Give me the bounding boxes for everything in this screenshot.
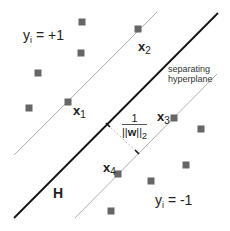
positive-point-square-icon	[26, 105, 33, 112]
hyperplane-caption: separating hyperplane	[168, 64, 213, 84]
class-value: = +1	[32, 27, 64, 43]
vector-sub: 2	[145, 45, 151, 56]
fraction-numerator: 1	[122, 113, 147, 124]
caption-line-1: separating	[168, 64, 210, 74]
lower-margin-line	[75, 74, 217, 218]
arrow-tick-icon	[135, 150, 139, 154]
support-vector-label-x3: x3	[157, 110, 170, 126]
caption-line-2: hyperplane	[168, 74, 213, 84]
margin-width-fraction: 1 ||w||2	[122, 113, 147, 142]
class-negative-label: yi = -1	[155, 193, 192, 210]
weight-vector-symbol: w	[128, 126, 137, 138]
positive-point-square-icon	[78, 50, 85, 57]
norm-subscript: 2	[142, 131, 147, 141]
hyperplane-name-label: H	[53, 186, 63, 200]
negative-point-square-icon	[148, 178, 155, 185]
negative-point-square-icon	[108, 208, 115, 215]
vector-sub: 1	[80, 109, 86, 120]
positive-point-square-icon	[35, 70, 42, 77]
positive-point-square-icon	[79, 19, 86, 26]
support-vector-label-x1: x1	[73, 104, 86, 120]
class-var: y	[155, 192, 162, 208]
class-var: y	[23, 27, 30, 43]
fraction-denominator: ||w||2	[122, 124, 147, 142]
support-vector-label-x2: x2	[138, 40, 151, 56]
class-positive-label: yi = +1	[23, 28, 64, 45]
support-vector-square-icon	[65, 99, 72, 106]
negative-point-square-icon	[198, 126, 205, 133]
class-value: = -1	[164, 192, 192, 208]
vector-sub: 3	[164, 115, 170, 126]
support-vector-square-icon	[135, 26, 142, 33]
support-vector-label-x4: x4	[103, 161, 116, 177]
vector-sub: 4	[110, 166, 116, 177]
support-vector-square-icon	[171, 115, 178, 122]
negative-point-square-icon	[183, 162, 190, 169]
